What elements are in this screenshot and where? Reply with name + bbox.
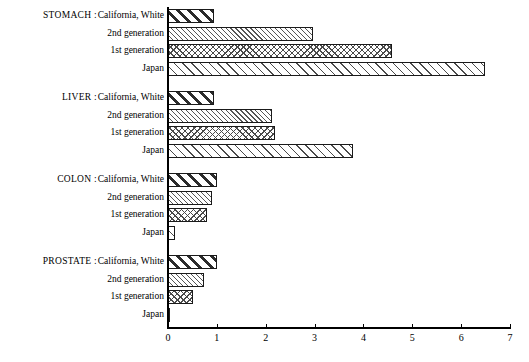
x-tick-label: 3 — [305, 332, 325, 343]
group-label-liver: LIVER : — [62, 92, 97, 102]
bar-japan — [168, 144, 353, 158]
x-tick-label: 1 — [207, 332, 227, 343]
group-label-prostate: PROSTATE : — [43, 256, 97, 266]
bar-2nd-generation — [168, 109, 272, 123]
x-tick-label: 2 — [256, 332, 276, 343]
category-label-2nd-generation: 2nd generation — [107, 192, 164, 202]
category-label-2nd-generation: 2nd generation — [107, 274, 164, 284]
bar-2nd-generation — [168, 191, 212, 205]
x-tick-mark — [363, 324, 364, 327]
bar-1st-generation — [168, 208, 207, 222]
chart-plot-area: California, White2nd generation1st gener… — [0, 0, 529, 362]
bar-2nd-generation — [168, 27, 313, 41]
category-label-california-white: California, White — [98, 10, 164, 20]
bar-1st-generation — [168, 290, 193, 304]
group-label-stomach: STOMACH : — [43, 10, 97, 20]
x-tick-mark — [461, 324, 462, 327]
bar-2nd-generation — [168, 273, 204, 287]
x-tick-label: 4 — [353, 332, 373, 343]
category-label-california-white: California, White — [98, 256, 164, 266]
category-label-japan: Japan — [142, 227, 164, 237]
category-label-1st-generation: 1st generation — [110, 209, 164, 219]
bar-california-white — [168, 91, 214, 105]
category-label-1st-generation: 1st generation — [110, 127, 164, 137]
bar-california-white — [168, 173, 217, 187]
x-tick-label: 6 — [451, 332, 471, 343]
category-label-1st-generation: 1st generation — [110, 45, 164, 55]
bar-japan — [168, 62, 485, 76]
bar-japan — [168, 226, 175, 240]
category-label-california-white: California, White — [98, 174, 164, 184]
x-axis-line — [167, 327, 511, 329]
x-tick-label: 5 — [402, 332, 422, 343]
x-tick-mark — [510, 324, 511, 327]
x-tick-mark — [315, 324, 316, 327]
category-label-2nd-generation: 2nd generation — [107, 28, 164, 38]
bar-1st-generation — [168, 126, 275, 140]
x-tick-label: 7 — [500, 332, 520, 343]
bar-california-white — [168, 255, 217, 269]
bar-1st-generation — [168, 44, 392, 58]
category-label-california-white: California, White — [98, 92, 164, 102]
group-label-colon: COLON : — [57, 174, 97, 184]
x-tick-mark — [266, 324, 267, 327]
x-tick-mark — [412, 324, 413, 327]
category-label-japan: Japan — [142, 63, 164, 73]
category-label-1st-generation: 1st generation — [110, 291, 164, 301]
x-tick-mark — [217, 324, 218, 327]
y-axis-line — [167, 7, 169, 327]
x-tick-label: 0 — [158, 332, 178, 343]
category-label-2nd-generation: 2nd generation — [107, 110, 164, 120]
chart-container: California, White2nd generation1st gener… — [0, 0, 529, 362]
category-label-japan: Japan — [142, 309, 164, 319]
category-label-japan: Japan — [142, 145, 164, 155]
bar-california-white — [168, 9, 214, 23]
